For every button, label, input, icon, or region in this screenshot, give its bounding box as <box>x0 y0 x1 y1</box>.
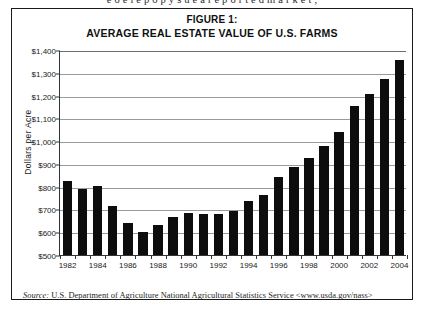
chart: Dollars per Acre $500$600$700$800$900$1,… <box>12 9 414 301</box>
x-tick-label: 1986 <box>119 261 137 270</box>
x-tick-label: 1982 <box>59 261 77 270</box>
bar <box>350 106 359 255</box>
x-tick-mark <box>90 255 91 259</box>
y-tick-label: $500 <box>38 252 56 261</box>
x-tick-mark <box>347 255 348 259</box>
x-tick-mark <box>135 255 136 259</box>
y-tick-label: $900 <box>38 160 56 169</box>
bar <box>78 189 87 255</box>
bar <box>138 232 147 255</box>
bar <box>63 181 72 255</box>
cut-off-text-line: e o e l e p o p y s u e a r e p o r t e … <box>0 0 424 6</box>
x-tick-label: 1992 <box>210 261 228 270</box>
source-note: Source: U.S. Department of Agriculture N… <box>23 291 423 300</box>
source-body: U.S. Department of Agriculture National … <box>49 291 373 300</box>
bar <box>289 167 298 255</box>
bar <box>168 217 177 255</box>
bar <box>334 132 343 255</box>
bar <box>229 211 238 255</box>
bar <box>365 94 374 255</box>
bar <box>319 146 328 255</box>
x-tick-label: 1994 <box>240 261 258 270</box>
bar <box>304 158 313 255</box>
x-tick-mark <box>271 255 272 259</box>
bar <box>93 186 102 255</box>
x-tick-label: 1984 <box>89 261 107 270</box>
x-tick-mark <box>316 255 317 259</box>
x-tick-mark <box>181 255 182 259</box>
x-tick-mark <box>211 255 212 259</box>
y-tick-label: $600 <box>38 229 56 238</box>
x-tick-mark <box>407 255 408 259</box>
bar <box>259 195 268 255</box>
x-tick-mark <box>105 255 106 259</box>
x-tick-mark <box>120 255 121 259</box>
x-tick-label: 2004 <box>391 261 409 270</box>
y-tick-label: $800 <box>38 183 56 192</box>
bar <box>214 214 223 255</box>
x-tick-label: 1996 <box>270 261 288 270</box>
x-tick-mark <box>151 255 152 259</box>
x-axis-ticks <box>60 255 406 260</box>
bar-series <box>60 51 406 255</box>
x-tick-mark <box>166 255 167 259</box>
x-tick-mark <box>226 255 227 259</box>
y-tick-label: $700 <box>38 206 56 215</box>
x-tick-label: 1990 <box>179 261 197 270</box>
source-label: Source: <box>23 291 49 300</box>
figure-frame: FIGURE 1: AVERAGE REAL ESTATE VALUE OF U… <box>11 8 413 300</box>
x-tick-label: 2000 <box>330 261 348 270</box>
x-tick-mark <box>241 255 242 259</box>
x-tick-mark <box>196 255 197 259</box>
bar <box>395 60 404 255</box>
x-tick-mark <box>286 255 287 259</box>
bar <box>380 79 389 255</box>
y-tick-label: $1,400 <box>32 47 56 56</box>
bar <box>108 206 117 255</box>
y-tick-label: $1,200 <box>32 92 56 101</box>
bar <box>244 201 253 255</box>
y-tick-label: $1,100 <box>32 115 56 124</box>
bar <box>153 225 162 255</box>
x-tick-label: 1988 <box>149 261 167 270</box>
x-tick-mark <box>332 255 333 259</box>
bar <box>184 213 193 255</box>
y-tick-label: $1,300 <box>32 69 56 78</box>
x-tick-mark <box>377 255 378 259</box>
x-tick-mark <box>256 255 257 259</box>
x-tick-label: 2002 <box>360 261 378 270</box>
bar <box>123 223 132 255</box>
x-tick-mark <box>362 255 363 259</box>
x-tick-mark <box>392 255 393 259</box>
bar <box>199 214 208 255</box>
x-tick-mark <box>75 255 76 259</box>
x-tick-label: 1998 <box>300 261 318 270</box>
x-tick-mark <box>301 255 302 259</box>
plot-area: $500$600$700$800$900$1,000$1,100$1,200$1… <box>59 51 406 256</box>
x-tick-mark <box>60 255 61 259</box>
bar <box>274 177 283 255</box>
y-tick-label: $1,000 <box>32 138 56 147</box>
